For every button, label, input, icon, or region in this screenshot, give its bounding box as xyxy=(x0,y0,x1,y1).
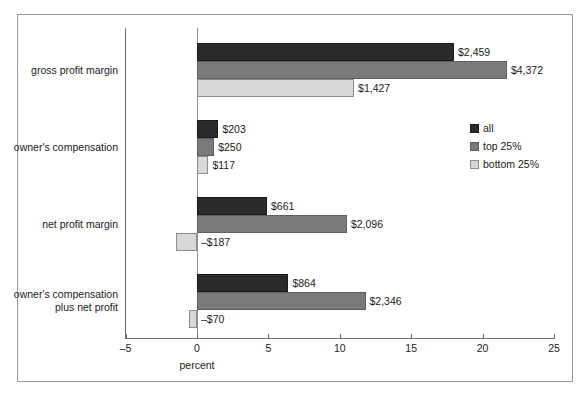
chart-figure: –50510152025 gross profit marginowner's … xyxy=(0,0,588,396)
legend-label: bottom 25% xyxy=(483,158,539,170)
x-tick-label: 25 xyxy=(548,342,560,354)
x-tick-label: –5 xyxy=(120,342,132,354)
bar[interactable] xyxy=(197,61,507,79)
bar-value-label: $864 xyxy=(292,274,315,292)
x-tick-mark xyxy=(411,334,412,339)
legend-item-top-25[interactable]: top 25% xyxy=(470,138,539,154)
bar-value-label: $117 xyxy=(212,156,235,174)
x-tick-label: 0 xyxy=(194,342,200,354)
x-axis-title: percent xyxy=(179,359,214,371)
x-tick-mark xyxy=(483,334,484,339)
x-tick-mark xyxy=(340,334,341,339)
category-label: owner's compensation xyxy=(14,141,118,154)
bar-value-label: $1,427 xyxy=(358,79,390,97)
x-tick-mark xyxy=(126,334,127,339)
bar[interactable] xyxy=(197,156,208,174)
legend-swatch-icon xyxy=(470,124,479,133)
bar-value-label: $4,372 xyxy=(511,61,543,79)
category-axis-line xyxy=(125,28,126,339)
legend-item-all[interactable]: all xyxy=(470,120,539,136)
bar[interactable] xyxy=(197,120,218,138)
bar-value-label: $250 xyxy=(218,138,241,156)
bar-value-label: –$187 xyxy=(201,233,230,251)
bar-value-label: $203 xyxy=(222,120,245,138)
bar[interactable] xyxy=(197,274,288,292)
bar[interactable] xyxy=(197,197,267,215)
legend-swatch-icon xyxy=(470,142,479,151)
category-label: owner's compensation plus net profit xyxy=(14,288,118,314)
x-tick-label: 20 xyxy=(477,342,489,354)
legend-label: all xyxy=(483,122,494,134)
x-tick-label: 10 xyxy=(334,342,346,354)
x-tick-label: 15 xyxy=(405,342,417,354)
x-tick-mark xyxy=(197,334,198,339)
legend-label: top 25% xyxy=(483,140,522,152)
category-label: gross profit margin xyxy=(31,64,118,77)
bar-value-label: –$70 xyxy=(201,310,224,328)
bar[interactable] xyxy=(197,215,347,233)
bar[interactable] xyxy=(189,310,197,328)
bar[interactable] xyxy=(197,79,354,97)
bar-value-label: $661 xyxy=(271,197,294,215)
bar-value-label: $2,459 xyxy=(458,43,490,61)
x-tick-label: 5 xyxy=(265,342,271,354)
bar[interactable] xyxy=(176,233,197,251)
legend-swatch-icon xyxy=(470,160,479,169)
bar[interactable] xyxy=(197,138,214,156)
category-label: net profit margin xyxy=(42,218,118,231)
x-tick-mark xyxy=(268,334,269,339)
bar[interactable] xyxy=(197,43,454,61)
bar[interactable] xyxy=(197,292,366,310)
x-tick-mark xyxy=(554,334,555,339)
bar-value-label: $2,346 xyxy=(370,292,402,310)
bar-value-label: $2,096 xyxy=(351,215,383,233)
chart-legend: all top 25% bottom 25% xyxy=(470,120,539,174)
legend-item-bottom-25[interactable]: bottom 25% xyxy=(470,156,539,172)
